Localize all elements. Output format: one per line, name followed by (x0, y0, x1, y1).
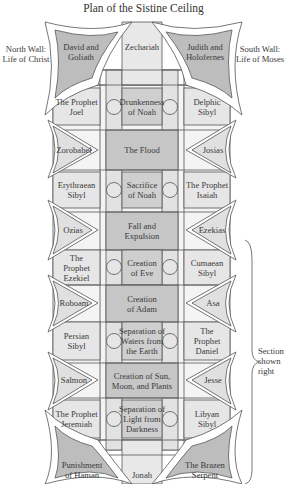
section-bracket (245, 240, 259, 484)
spandrel-left: Salmon (54, 373, 94, 387)
seer-right: Cumaean Sibyl (184, 250, 230, 285)
seer-left: The Prophet Jeremiah (53, 400, 100, 438)
pendentive-top-left: David and Goliath (58, 40, 104, 64)
seer-right: Libyan Sibyl (184, 400, 230, 438)
scene-center: Drunkenness of Noah (118, 88, 166, 125)
spandrel-left: Zorobabel (52, 143, 96, 157)
seer-right: The Prophet Daniel (184, 322, 230, 360)
spandrel-right: Asa (198, 296, 228, 310)
seer-right: The Prophet Isaiah (184, 172, 230, 208)
pendentive-bottom-right: The Brazen Serpent (180, 458, 230, 482)
seer-left: Persian Sibyl (53, 322, 100, 360)
scene-center: Creation of Adam (106, 285, 178, 322)
scene-center: Sacrifice of Noah (122, 172, 162, 208)
spandrel-right: Josias (196, 143, 230, 157)
pendentive-top-right: Judith and Holofernes (180, 40, 230, 64)
section-bracket-label: Section shown right (258, 346, 287, 376)
north-wall-label: North Wall: Life of Christ (2, 44, 50, 64)
south-wall-label: South Wall: Life of Moses (234, 44, 286, 64)
spandrel-left: Ozias (54, 223, 92, 237)
spandrel-left: Roboam (54, 296, 94, 310)
spandrel-right: Jesse (198, 373, 228, 387)
seer-left: Erythraean Sibyl (53, 172, 100, 208)
pendentive-bottom-left: Punishment of Haman (58, 458, 106, 482)
prophet-jonah: Jonah (122, 468, 162, 482)
seer-right: Delphic Sibyl (184, 88, 230, 125)
scene-center: Fall and Expulsion (106, 212, 178, 250)
prophet-zechariah: Zechariah (122, 40, 162, 54)
scene-center: Creation of Sun, Moon, and Plants (106, 363, 178, 398)
seer-left: The Prophet Joel (53, 88, 100, 125)
scene-center: Separation of Light from Darkness (116, 400, 168, 438)
seer-left: The Prophet Ezekiel (53, 250, 100, 285)
spandrel-right: Ezekias (194, 223, 230, 237)
scene-center: Separation of Waters from the Earth (116, 322, 168, 360)
scene-center: The Flood (106, 130, 178, 170)
scene-center: Creation of Eve (122, 250, 162, 285)
